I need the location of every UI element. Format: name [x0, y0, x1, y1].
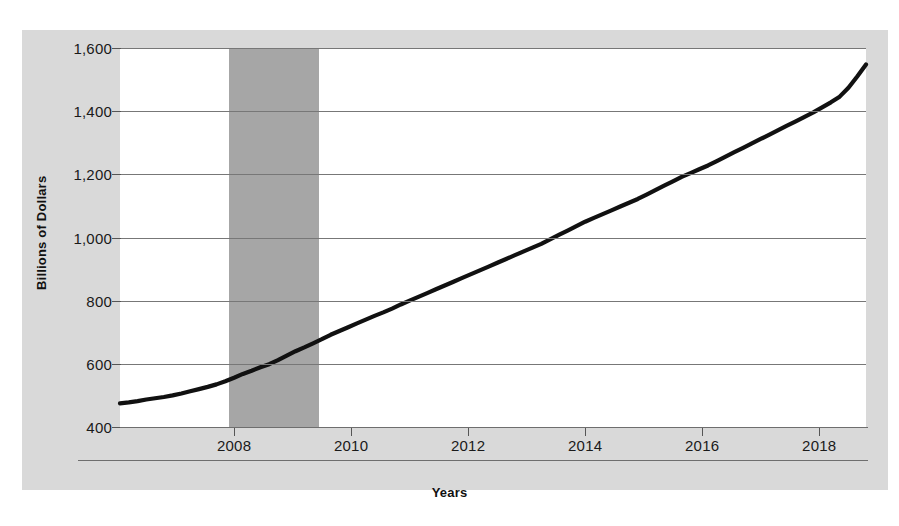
y-axis-tick-mark: [112, 111, 121, 112]
x-axis-tick-mark: [234, 428, 235, 436]
gridline: [120, 301, 866, 302]
y-axis-tick-mark: [112, 364, 121, 365]
x-axis-tick-label: 2010: [311, 437, 391, 454]
chart-screenshot: 4006008001,0001,2001,4001,600 Billions o…: [0, 0, 899, 526]
currency-series-line: [120, 64, 866, 403]
x-axis-tick-mark: [819, 428, 820, 436]
x-axis-tick-label: 2016: [662, 437, 742, 454]
y-axis-tick-label: 1,400: [42, 103, 112, 120]
x-axis-tick-label: 2008: [194, 437, 274, 454]
y-axis-tick-mark: [112, 238, 121, 239]
gridline: [120, 238, 866, 239]
y-axis-tick-mark: [112, 301, 121, 302]
y-axis-tick-label: 800: [42, 292, 112, 309]
x-axis-line: [120, 427, 868, 428]
x-axis-tick-label: 2018: [779, 437, 859, 454]
gridline: [120, 364, 866, 365]
x-axis-tick-mark: [468, 428, 469, 436]
y-axis-tick-label: 1,000: [42, 229, 112, 246]
y-axis-tick-label: 600: [42, 355, 112, 372]
y-axis-tick-mark: [112, 174, 121, 175]
gridline: [120, 48, 866, 49]
gridline: [120, 174, 866, 175]
gridline: [120, 111, 866, 112]
y-axis-tick-label: 1,600: [42, 40, 112, 57]
y-axis-tick-mark: [112, 48, 121, 49]
plot-area: [120, 48, 866, 427]
x-axis-tick-mark: [585, 428, 586, 436]
x-axis-title: Years: [0, 485, 899, 500]
y-axis-title: Billions of Dollars: [31, 148, 51, 318]
x-axis-tick-mark: [702, 428, 703, 436]
x-axis-tick-mark: [351, 428, 352, 436]
x-axis-tick-label: 2012: [428, 437, 508, 454]
y-axis-tick-label: 400: [42, 419, 112, 436]
x-axis-baseline-rule: [78, 460, 868, 461]
x-axis-tick-label: 2014: [545, 437, 625, 454]
y-axis-tick-label: 1,200: [42, 166, 112, 183]
